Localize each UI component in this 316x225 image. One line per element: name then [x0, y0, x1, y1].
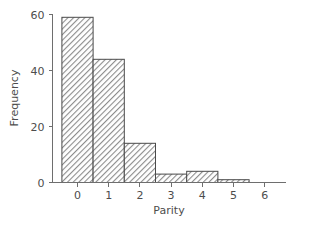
x-axis-ticks: 0123456: [74, 183, 268, 202]
x-tick-label: 1: [105, 189, 112, 202]
x-tick-label: 4: [199, 189, 206, 202]
bar: [62, 17, 93, 182]
x-tick-label: 2: [136, 189, 143, 202]
y-tick-label: 60: [31, 9, 45, 22]
x-tick-label: 0: [74, 189, 81, 202]
x-tick-label: 3: [168, 189, 175, 202]
y-axis-title: Frequency: [8, 69, 21, 126]
y-tick-label: 20: [31, 121, 45, 134]
x-tick-label: 6: [261, 189, 268, 202]
bar: [156, 174, 187, 182]
bar: [187, 171, 218, 182]
y-axis-ticks: 0204060: [31, 9, 53, 190]
x-axis-title: Parity: [153, 204, 185, 217]
bar: [93, 59, 124, 182]
x-tick-label: 5: [230, 189, 237, 202]
histogram-chart: 0204060 0123456 Parity Frequency: [0, 0, 316, 225]
y-tick-label: 40: [31, 65, 45, 78]
y-tick-label: 0: [38, 177, 45, 190]
bar: [124, 143, 155, 182]
chart-canvas: 0204060 0123456 Parity Frequency: [0, 0, 316, 225]
bars-group: [62, 17, 249, 182]
plot-area: 0204060 0123456 Parity Frequency: [0, 0, 316, 225]
